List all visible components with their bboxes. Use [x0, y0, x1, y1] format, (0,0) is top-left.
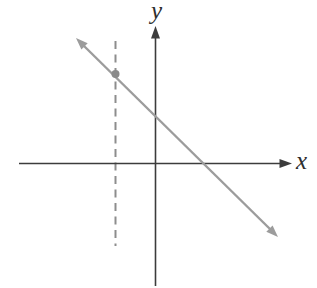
graph-canvas — [0, 0, 317, 288]
x-axis-label: x — [296, 148, 307, 173]
y-axis-label: y — [151, 0, 162, 23]
y-axis-arrowhead-icon — [151, 26, 160, 39]
x-axis-arrowhead-icon — [280, 159, 293, 168]
intersection-point — [112, 70, 120, 78]
graphed-line — [83, 45, 271, 230]
coordinate-plane-figure: y x — [0, 0, 317, 288]
